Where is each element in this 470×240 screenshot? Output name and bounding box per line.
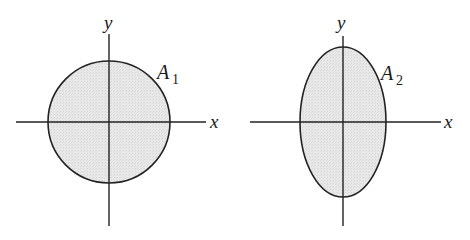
region-label-a2-subscript: 2: [396, 73, 403, 88]
x-axis-label-right: x: [443, 111, 453, 132]
region-label-a2: A: [379, 62, 394, 84]
region-label-a1: A: [155, 61, 170, 83]
y-axis-label-right: y: [335, 12, 346, 33]
x-axis-label-left: x: [209, 111, 219, 132]
diagram-canvas: y x A 1 y x A 2: [0, 0, 470, 240]
figure-circle-a1: y x A 1: [16, 12, 219, 226]
figure-ellipse-a2: y x A 2: [250, 12, 453, 226]
y-axis-label-left: y: [102, 12, 113, 33]
region-label-a1-subscript: 1: [172, 72, 179, 87]
